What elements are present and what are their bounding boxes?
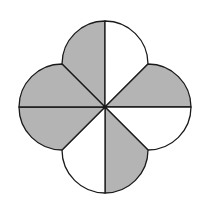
flower-diagram — [0, 0, 204, 215]
center-point — [103, 105, 106, 108]
outline-group — [103, 105, 106, 108]
